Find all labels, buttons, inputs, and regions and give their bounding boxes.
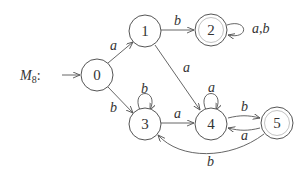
- edge-label-4-5: b: [241, 99, 248, 114]
- state-0: 0: [81, 59, 113, 91]
- edge-label-3-4: a: [174, 106, 181, 121]
- edge-label-0-3: b: [110, 100, 117, 115]
- edge-label-5-4: a: [241, 128, 248, 143]
- machine-title: M8:: [19, 68, 41, 85]
- edge-label-3-3: b: [141, 81, 148, 96]
- svg-text:4: 4: [207, 116, 215, 132]
- edge-4-5: [228, 116, 260, 118]
- state-3: 3: [129, 108, 161, 140]
- edge-label-2-2: a,b: [252, 21, 270, 36]
- edge-label-1-2: b: [174, 13, 181, 28]
- edge-label-4-4: a: [208, 80, 215, 95]
- edge-1-4: [155, 45, 200, 110]
- edge-label-1-4: a: [183, 60, 190, 75]
- state-5-accepting: 5: [261, 107, 293, 139]
- edge-label-0-1: a: [110, 38, 117, 53]
- edge-2-2: [227, 24, 244, 36]
- svg-text:3: 3: [141, 116, 149, 132]
- svg-text:2: 2: [207, 22, 215, 38]
- state-2-accepting: 2: [195, 14, 227, 46]
- dfa-diagram: M8: a b b a a,b b a a b a b 0 1 2: [0, 0, 308, 177]
- svg-text:0: 0: [93, 67, 101, 83]
- state-1: 1: [129, 15, 161, 47]
- edge-label-5-3: b: [207, 154, 214, 169]
- svg-text:5: 5: [273, 115, 281, 131]
- state-4: 4: [195, 108, 227, 140]
- svg-text:1: 1: [141, 23, 149, 39]
